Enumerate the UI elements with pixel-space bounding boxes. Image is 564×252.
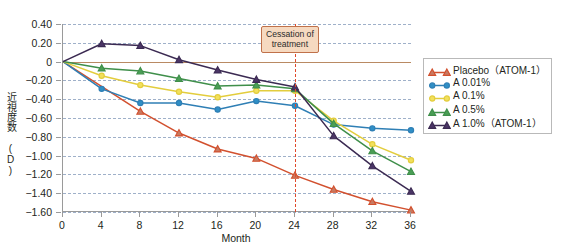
legend-label: A 1.0%（ATOM-1） xyxy=(453,115,542,130)
x-axis-tick-label: 16 xyxy=(211,219,223,231)
data-point xyxy=(370,126,375,131)
data-point xyxy=(176,89,181,94)
y-axis-tick-mark xyxy=(56,174,61,175)
x-axis-tick-label: 20 xyxy=(249,219,261,231)
x-axis-tick-label: 8 xyxy=(136,219,142,231)
data-point xyxy=(99,86,104,91)
x-axis-tick-label: 28 xyxy=(327,219,339,231)
y-axis-tick-mark xyxy=(56,137,61,138)
x-axis-tick-mark xyxy=(294,212,295,217)
y-axis-tick-label: 0.20 xyxy=(0,37,52,49)
data-point xyxy=(176,100,181,105)
y-axis-tick-mark xyxy=(56,193,61,194)
data-point xyxy=(215,95,220,100)
data-point xyxy=(138,100,143,105)
legend-item[interactable]: A 0.01% xyxy=(428,76,546,89)
legend-marker-icon xyxy=(428,77,451,88)
series-line xyxy=(63,44,411,192)
y-axis-tick-mark xyxy=(56,156,61,157)
data-point xyxy=(408,188,415,194)
x-axis-tick-label: 24 xyxy=(288,219,300,231)
series-line xyxy=(63,62,411,161)
x-axis-tick-mark xyxy=(217,212,218,217)
y-axis-tick-mark xyxy=(56,99,61,100)
x-axis-tick-mark xyxy=(101,212,102,217)
data-point xyxy=(408,168,415,174)
x-axis-tick-mark xyxy=(139,212,140,217)
legend-label: A 0.01% xyxy=(453,77,490,88)
y-axis-tick-label: 0.40 xyxy=(0,18,52,30)
x-axis-tick-label: 12 xyxy=(172,219,184,231)
x-axis-tick-mark xyxy=(178,212,179,217)
y-axis-tick-mark xyxy=(56,118,61,119)
series-1 xyxy=(63,62,414,133)
legend-item[interactable]: A 1.0%（ATOM-1） xyxy=(428,116,546,129)
legend-marker-icon xyxy=(428,64,451,75)
x-axis-tick-mark xyxy=(62,212,63,217)
y-axis-tick-label: −1.40 xyxy=(0,187,52,199)
y-axis-title: 近視度数 (D) xyxy=(2,92,18,176)
data-point xyxy=(408,128,413,133)
x-axis-tick-mark xyxy=(333,212,334,217)
data-point xyxy=(138,83,143,88)
series-4 xyxy=(63,40,415,194)
x-axis-title: Month xyxy=(62,232,410,244)
legend-label: A 0.5% xyxy=(453,104,485,115)
y-axis-tick-mark xyxy=(56,80,61,81)
data-point xyxy=(254,88,259,93)
legend-marker-icon xyxy=(428,117,451,128)
y-axis-tick-mark xyxy=(56,212,61,213)
x-axis-tick-mark xyxy=(410,212,411,217)
x-axis-tick-mark xyxy=(255,212,256,217)
data-point xyxy=(176,130,183,136)
x-axis-tick-label: 32 xyxy=(365,219,377,231)
x-axis-tick-mark xyxy=(371,212,372,217)
data-point xyxy=(370,142,375,147)
data-point xyxy=(137,108,144,114)
legend-item[interactable]: Placebo（ATOM-1） xyxy=(428,63,546,76)
chart-legend: Placebo（ATOM-1）A 0.01%A 0.1%A 0.5%A 1.0%… xyxy=(423,58,552,134)
y-axis-tick-label: −0.20 xyxy=(0,74,52,86)
x-axis-tick-label: 36 xyxy=(404,219,416,231)
data-point xyxy=(99,73,104,78)
cessation-annotation-box: Cessation of treatment xyxy=(261,26,319,53)
legend-item[interactable]: A 0.5% xyxy=(428,103,546,116)
cessation-label-line2: treatment xyxy=(266,39,314,49)
series-2 xyxy=(63,62,414,163)
y-axis-tick-label: −1.60 xyxy=(0,206,52,218)
x-axis-tick-label: 0 xyxy=(59,219,65,231)
x-axis-tick-label: 4 xyxy=(98,219,104,231)
cessation-label-line1: Cessation of xyxy=(266,29,314,39)
y-axis-tick-mark xyxy=(56,43,61,44)
data-point xyxy=(215,107,220,112)
y-axis-tick-mark xyxy=(56,62,61,63)
y-axis-tick-label: 0 xyxy=(0,56,52,68)
legend-label: Placebo（ATOM-1） xyxy=(453,62,546,77)
y-axis-tick-mark xyxy=(56,24,61,25)
data-point xyxy=(254,98,259,103)
legend-label: A 0.1% xyxy=(453,90,485,101)
legend-item[interactable]: A 0.1% xyxy=(428,89,546,102)
data-point xyxy=(408,158,413,163)
legend-marker-icon xyxy=(428,104,451,115)
series-layer xyxy=(63,24,411,212)
plot-area xyxy=(62,24,410,212)
chart-figure: 0.400.200−0.20−0.40−0.60−0.80−1.00−1.20−… xyxy=(0,0,564,252)
legend-marker-icon xyxy=(428,90,451,101)
